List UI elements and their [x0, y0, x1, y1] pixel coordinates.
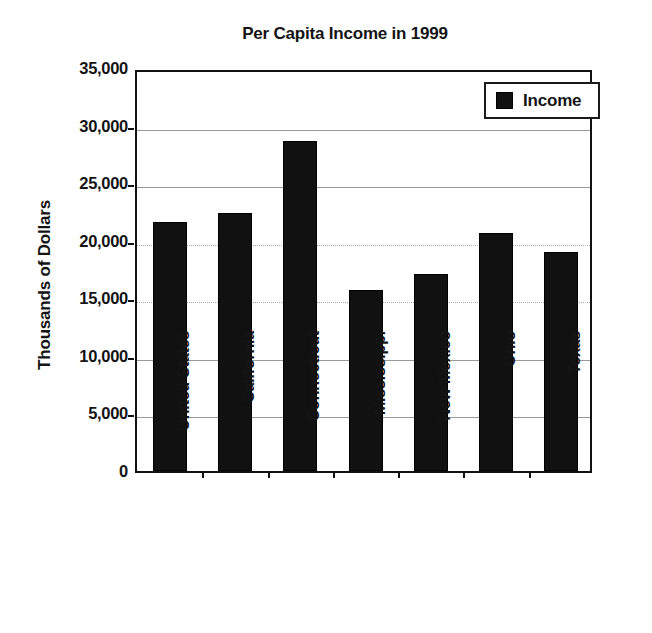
y-axis-tick-label: 25,000 — [28, 174, 128, 193]
y-axis-tick-mark — [128, 300, 134, 302]
x-axis-category-label: Texas — [566, 331, 584, 481]
plot-area — [135, 70, 592, 473]
x-axis-category-label: Connecticut — [305, 331, 323, 481]
y-axis-tick-mark — [128, 128, 134, 130]
y-axis-tick-labels: 05,00010,00015,00020,00025,00030,00035,0… — [20, 70, 128, 473]
y-axis-tick-label: 20,000 — [28, 232, 128, 251]
bars-layer — [137, 72, 590, 471]
y-axis-tick-label: 0 — [28, 462, 128, 481]
y-axis-tick-mark — [128, 415, 134, 417]
y-axis-tick-label: 30,000 — [28, 117, 128, 136]
x-axis-category-label: Ohio — [501, 331, 519, 481]
y-axis-tick-label: 10,000 — [28, 347, 128, 366]
y-axis-tick-mark — [128, 358, 134, 360]
y-axis-tick-label: 35,000 — [28, 59, 128, 78]
bar-chart: Per Capita Income in 1999 Thousands of D… — [0, 0, 652, 633]
legend-label-income: Income — [523, 91, 581, 111]
legend: Income — [484, 82, 600, 119]
legend-swatch-income — [496, 92, 513, 109]
x-axis-category-labels: United StatesCaliforniaConnecticutMissis… — [135, 473, 592, 633]
x-axis-category-label: New Mexico — [436, 331, 454, 481]
y-axis-tick-label: 5,000 — [28, 404, 128, 423]
x-axis-category-label: United States — [175, 331, 193, 481]
y-axis-tick-mark — [128, 185, 134, 187]
y-axis-tick-label: 15,000 — [28, 289, 128, 308]
chart-title: Per Capita Income in 1999 — [135, 24, 555, 44]
x-axis-category-label: Mississippi — [371, 331, 389, 481]
y-axis-tick-mark — [128, 243, 134, 245]
x-axis-category-label: California — [240, 331, 258, 481]
